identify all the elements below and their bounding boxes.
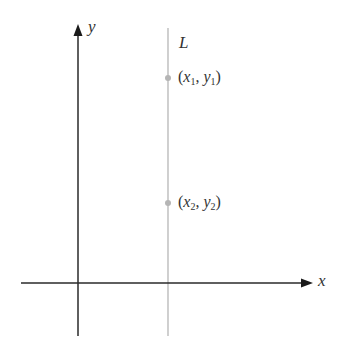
- x-axis-label: x: [318, 271, 326, 291]
- diagram-graphics: [0, 0, 355, 345]
- point-2-marker: [165, 200, 171, 206]
- x-axis-arrow-icon: [301, 279, 313, 288]
- coordinate-diagram: y x L (x1, y1) (x2, y2): [0, 0, 355, 345]
- y-axis-label: y: [88, 17, 96, 37]
- point-2-label: (x2, y2): [178, 193, 221, 212]
- y-axis-arrow-icon: [74, 24, 83, 36]
- point-1-label: (x1, y1): [178, 68, 221, 87]
- line-l-label: L: [179, 33, 188, 53]
- point-1-marker: [165, 75, 171, 81]
